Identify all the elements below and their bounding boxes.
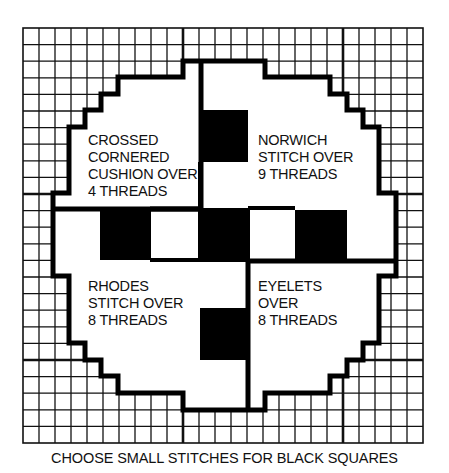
diagram-caption: CHOOSE SMALL STITCHES FOR BLACK SQUARES [0, 450, 449, 466]
black-square-top [200, 110, 248, 162]
black-square-bottom [200, 308, 248, 360]
black-square-left [100, 210, 151, 260]
black-square-center [198, 208, 250, 262]
label-eyelets: EYELETS OVER 8 THREADS [258, 278, 337, 329]
black-square-right [295, 210, 347, 260]
label-crossed-cornered-cushion: CROSSED CORNERED CUSHION OVER 4 THREADS [88, 132, 198, 200]
label-rhodes-stitch: RHODES STITCH OVER 8 THREADS [88, 278, 183, 329]
label-norwich-stitch: NORWICH STITCH OVER 9 THREADS [258, 132, 353, 183]
needlepoint-grid-diagram [0, 0, 449, 473]
